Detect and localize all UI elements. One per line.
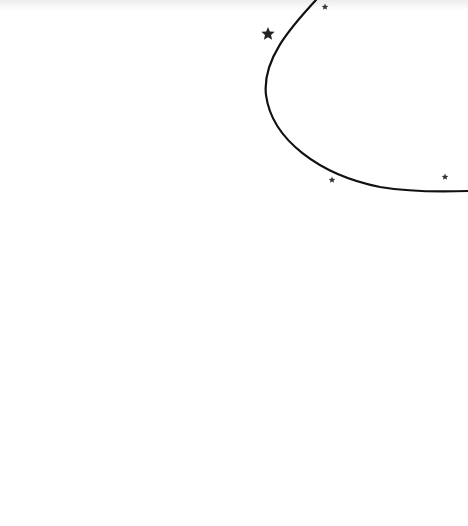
star-large-icon [261, 27, 274, 40]
swoosh-curve [266, 0, 468, 192]
star-small-bottom-right-icon [442, 174, 449, 180]
star-small-bottom-left-icon [329, 177, 336, 183]
decorative-curve-artwork [0, 0, 468, 526]
star-small-top-icon [322, 4, 329, 10]
